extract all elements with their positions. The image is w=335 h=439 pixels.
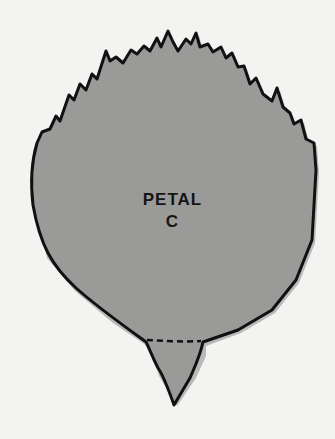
petal-sublabel: C (5, 212, 335, 232)
petal-label: PETAL (5, 190, 335, 210)
